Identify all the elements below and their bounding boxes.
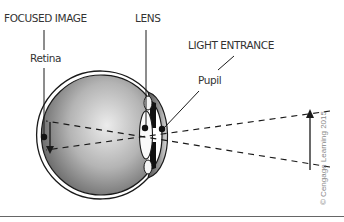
label-light-entrance: LIGHT ENTRANCE bbox=[188, 39, 274, 51]
copyright-text: © Cengage Learning 2015 bbox=[319, 110, 328, 205]
eye-diagram: FOCUSED IMAGE Retina LENS LIGHT ENTRANCE… bbox=[0, 0, 344, 222]
object-arrow bbox=[306, 109, 314, 170]
label-lens: LENS bbox=[135, 12, 161, 24]
label-retina: Retina bbox=[30, 52, 61, 64]
label-focused-image: FOCUSED IMAGE bbox=[4, 12, 87, 24]
label-pupil: Pupil bbox=[198, 74, 221, 86]
